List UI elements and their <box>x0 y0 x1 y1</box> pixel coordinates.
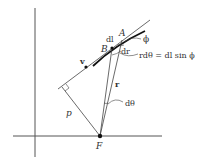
label-dl: dl <box>106 35 114 44</box>
point-B-dot <box>110 46 113 49</box>
label-r: r <box>115 79 120 89</box>
label-F: F <box>95 141 103 151</box>
dr-arc <box>112 51 121 55</box>
label-v: v <box>79 56 85 66</box>
relation-equation: rdθ = dl sin ϕ <box>139 51 195 60</box>
orbit-diagram: A B dl dr ϕ v r p dθ F rdθ = dl sin ϕ <box>0 0 212 164</box>
label-p: p <box>66 108 72 118</box>
label-A: A <box>118 28 126 38</box>
right-angle-mark <box>65 84 69 91</box>
label-phi: ϕ <box>143 34 149 44</box>
focus-F-dot <box>98 134 102 138</box>
dtheta-arc <box>104 103 108 104</box>
label-dtheta: dθ <box>125 99 135 108</box>
label-dr: dr <box>121 47 130 56</box>
label-B: B <box>100 44 108 54</box>
v-dot <box>84 65 87 68</box>
dtheta-leader <box>108 100 123 104</box>
